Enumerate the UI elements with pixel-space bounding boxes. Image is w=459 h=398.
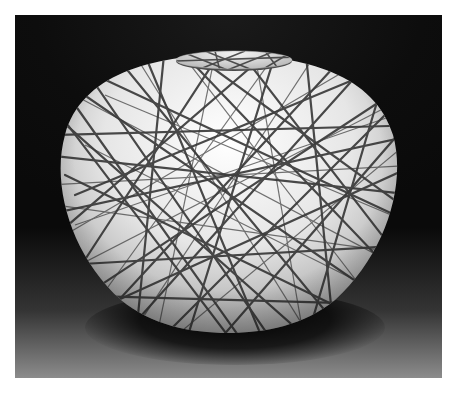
vase xyxy=(15,15,442,378)
photograph xyxy=(15,15,442,378)
